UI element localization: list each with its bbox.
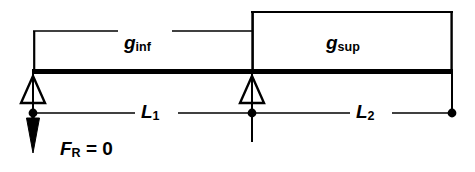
dimension-node-dot-right (448, 109, 457, 118)
label-g-sup: gsup (326, 33, 360, 52)
label-g-sup-symbol: g (326, 32, 338, 53)
downward-reaction-arrow (27, 112, 40, 153)
beam-load-diagram: ginf gsup L1 L2 FR = 0 (0, 0, 475, 172)
label-g-inf: ginf (124, 33, 151, 52)
label-l1-symbol: L (141, 101, 153, 122)
middle-support (240, 74, 264, 142)
label-g-inf-subscript: inf (136, 40, 151, 54)
dimension-node-dot-middle (248, 109, 257, 118)
reaction-arrow-head-icon (27, 118, 40, 153)
label-fr-symbol: F (60, 138, 72, 159)
left-support (21, 74, 45, 112)
label-reaction-force: FR = 0 (60, 139, 113, 158)
label-l2-subscript: 2 (368, 109, 375, 123)
label-l2-symbol: L (356, 101, 368, 122)
label-span-l1: L1 (141, 102, 160, 121)
label-span-l2: L2 (356, 102, 375, 121)
label-fr-equals: = 0 (81, 138, 113, 159)
label-l1-subscript: 1 (153, 109, 160, 123)
label-g-inf-symbol: g (124, 32, 136, 53)
label-g-sup-subscript: sup (338, 40, 360, 54)
label-fr-subscript: R (72, 146, 81, 160)
